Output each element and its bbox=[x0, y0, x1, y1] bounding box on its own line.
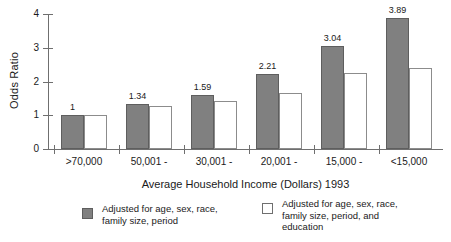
y-axis-tick-label: 4 bbox=[26, 9, 39, 19]
x-axis-category-label: 20,001 - bbox=[242, 156, 316, 167]
chart-legend: Adjusted for age, sex, race, family size… bbox=[0, 198, 451, 242]
y-axis-tick-label: 2 bbox=[26, 77, 39, 87]
legend-swatch-hollow bbox=[262, 203, 273, 214]
y-axis-tick bbox=[43, 14, 53, 15]
x-axis-tick bbox=[119, 145, 120, 154]
bar bbox=[126, 104, 149, 149]
x-axis-tick bbox=[184, 145, 185, 154]
x-axis-tick bbox=[249, 145, 250, 154]
x-axis-category-label: 50,001 - bbox=[112, 156, 186, 167]
bar bbox=[279, 93, 302, 149]
bar-value-label: 3.04 bbox=[312, 34, 353, 43]
x-axis-category-label: <15,000 bbox=[372, 156, 446, 167]
bar bbox=[61, 115, 84, 149]
bar-value-label: 2.21 bbox=[247, 62, 288, 71]
y-axis-title: Odds Ratio bbox=[9, 26, 20, 136]
bar bbox=[214, 101, 237, 149]
bar bbox=[256, 74, 279, 149]
x-axis-category-label: 30,001 - bbox=[177, 156, 251, 167]
bar-value-label: 1 bbox=[52, 103, 93, 112]
bar bbox=[321, 46, 344, 149]
bar bbox=[386, 18, 409, 149]
y-axis-tick-label: 3 bbox=[26, 43, 39, 53]
x-axis-tick bbox=[54, 145, 55, 154]
x-axis-tick bbox=[379, 145, 380, 154]
bar bbox=[344, 73, 367, 149]
bar-value-label: 1.34 bbox=[117, 92, 158, 101]
x-axis-category-label: 15,000 - bbox=[307, 156, 381, 167]
bar bbox=[149, 106, 172, 149]
bar bbox=[84, 115, 107, 149]
y-axis-tick bbox=[43, 115, 53, 116]
x-axis-tick bbox=[314, 145, 315, 154]
legend-swatch-filled bbox=[82, 208, 93, 219]
x-axis-title: Average Household Income (Dollars) 1993 bbox=[48, 178, 443, 190]
y-axis-tick bbox=[43, 149, 53, 150]
bar-chart-figure: Odds Ratio Average Household Income (Dol… bbox=[0, 0, 451, 242]
x-axis-line bbox=[48, 149, 443, 150]
y-axis-tick bbox=[43, 48, 53, 49]
legend-entry-adjusted-base: Adjusted for age, sex, race, family size… bbox=[82, 203, 218, 226]
bar-value-label: 3.89 bbox=[377, 6, 418, 15]
bar bbox=[191, 95, 214, 149]
y-axis-tick bbox=[43, 82, 53, 83]
bar bbox=[409, 68, 432, 149]
y-axis-tick-label: 1 bbox=[26, 110, 39, 120]
legend-entry-adjusted-education: Adjusted for age, sex, race, family size… bbox=[262, 198, 398, 233]
bar-value-label: 1.59 bbox=[182, 83, 223, 92]
legend-label-adjusted-base: Adjusted for age, sex, race, family size… bbox=[102, 203, 218, 226]
legend-label-adjusted-education: Adjusted for age, sex, race, family size… bbox=[282, 198, 398, 233]
y-axis-tick-label: 0 bbox=[26, 144, 39, 154]
x-axis-category-label: >70,000 bbox=[47, 156, 121, 167]
